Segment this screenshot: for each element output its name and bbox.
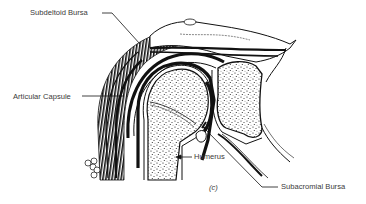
fat-globules — [85, 158, 100, 178]
humerus-bone — [143, 65, 212, 180]
leader-subdeltoid — [102, 13, 140, 44]
shoulder-anatomy-figure: Subdeltoid Bursa Articular Capsule Humer… — [0, 0, 366, 204]
label-articular-capsule: Articular Capsule — [13, 93, 71, 101]
panel-label: (c) — [209, 184, 218, 192]
label-subacromial-bursa: Subacromial Bursa — [281, 183, 345, 191]
label-humerus: Humerus — [194, 153, 225, 161]
scapula-bone — [204, 62, 262, 144]
label-subdeltoid-bursa: Subdeltoid Bursa — [30, 9, 88, 17]
shoulder-drawing — [0, 0, 366, 204]
